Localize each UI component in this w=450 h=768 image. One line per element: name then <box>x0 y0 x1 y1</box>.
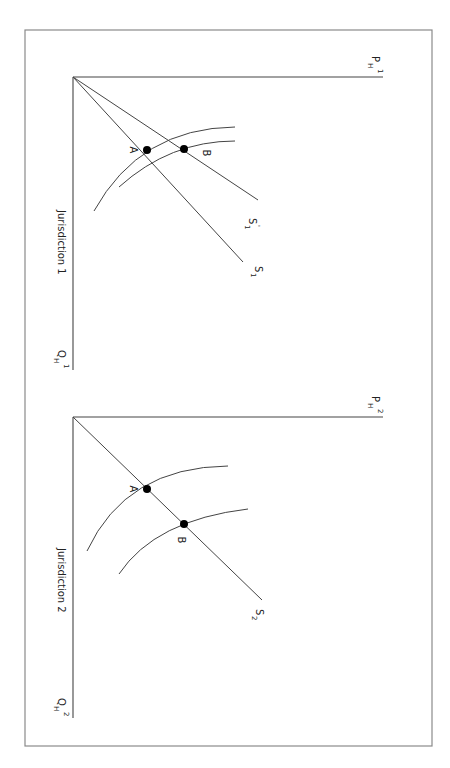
svg-text:': ' <box>253 225 261 227</box>
svg-text:2: 2 <box>250 616 258 620</box>
point-b-1 <box>180 145 188 153</box>
svg-text:P: P <box>370 56 381 62</box>
curve-a-1 <box>94 127 235 211</box>
panel-title-1: Jurisdiction 1 <box>56 209 67 275</box>
ray-s1 <box>73 77 243 262</box>
label-a-1: A <box>128 147 139 154</box>
svg-text:S: S <box>247 218 258 224</box>
label-quantity-axis-2: Q H 2 <box>52 698 70 716</box>
svg-text:1: 1 <box>376 69 384 73</box>
panel-jurisdiction-2: A B S 2 P H 2 Q H 2 Jurisdiction 2 <box>52 396 384 718</box>
svg-text:1: 1 <box>62 364 70 368</box>
point-b-2 <box>180 520 188 528</box>
svg-text:P: P <box>370 396 381 402</box>
label-b-1: B <box>201 150 212 157</box>
svg-text:1: 1 <box>243 225 251 229</box>
svg-text:Q: Q <box>56 350 67 358</box>
panel-title-2: Jurisdiction 2 <box>56 547 67 613</box>
svg-text:2: 2 <box>376 409 384 413</box>
label-a-2: A <box>128 486 139 493</box>
label-b-2: B <box>176 537 187 544</box>
label-s2: S 2 <box>250 609 265 620</box>
label-s1: S 1 <box>249 266 264 277</box>
label-quantity-axis-1: Q H 1 <box>52 350 70 368</box>
diagram-canvas: A B S 1 ' S 1 P H 1 Q H 1 Jurisdiction 1 <box>0 0 450 768</box>
svg-text:2: 2 <box>62 712 70 716</box>
svg-text:H: H <box>52 706 60 711</box>
svg-text:Q: Q <box>56 698 67 706</box>
svg-text:H: H <box>366 63 374 68</box>
label-price-axis-1: P H 1 <box>366 56 384 73</box>
figure-frame <box>25 30 432 746</box>
point-a-2 <box>143 485 151 493</box>
svg-text:1: 1 <box>249 273 257 277</box>
label-s1-prime: S 1 ' <box>243 218 261 229</box>
svg-text:H: H <box>52 358 60 363</box>
label-price-axis-2: P H 2 <box>366 396 384 413</box>
svg-text:S: S <box>254 609 265 615</box>
curve-a-2 <box>87 466 228 551</box>
svg-text:S: S <box>253 266 264 272</box>
ray-s1-prime <box>73 77 258 200</box>
ray-s2 <box>73 417 262 600</box>
point-a-1 <box>143 146 151 154</box>
panel-jurisdiction-1: A B S 1 ' S 1 P H 1 Q H 1 Jurisdiction 1 <box>52 56 384 370</box>
svg-text:H: H <box>366 403 374 408</box>
